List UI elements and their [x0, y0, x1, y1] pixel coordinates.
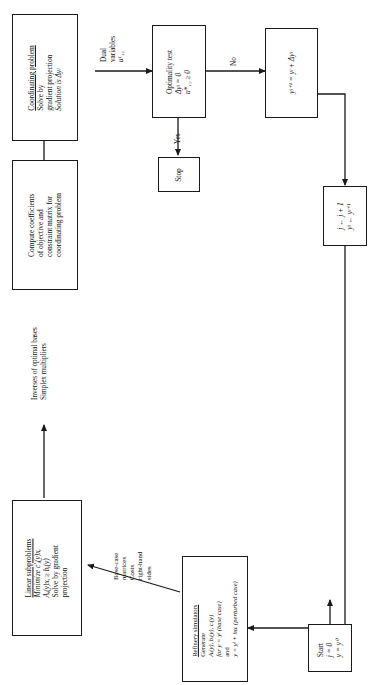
subproblems-line-5: projection: [61, 539, 70, 598]
yes-text: Yes: [174, 134, 183, 144]
subproblems-line-3: Aᵢ(y)xᵢ ≥ bᵢ(y): [42, 539, 51, 598]
optimality-test-text: Optimality test Δyʲ = 0 u*₁₂ ≥ 0: [165, 49, 192, 93]
subproblems-line-2: Minimize c′ᵢ(y)xᵢ: [33, 539, 42, 598]
no-label: No: [230, 57, 239, 66]
start-line-2: j = 0: [325, 639, 334, 657]
yes-label: Yes: [174, 134, 183, 144]
compute-line-3: constraint matrix for: [45, 193, 54, 257]
base-case-line-3: Costs: [128, 552, 136, 580]
counter-line-1: j ← j + 1: [336, 202, 345, 230]
dual-variables-line-3: u¹₁₂: [117, 36, 126, 62]
refinery-simulators-text: Refinery simulators Generate Aᵢ(y), bᵢ(y…: [191, 581, 239, 657]
coordinating-line-1: Coordinating problem: [27, 45, 36, 110]
no-text: No: [230, 57, 239, 66]
coordinating-line-2: Solve by: [36, 45, 45, 110]
compute-coefficients-box[interactable]: Compute coefficients of objective and co…: [12, 160, 78, 290]
base-case-line-1: Base-case: [112, 552, 120, 580]
optimality-line-1: Optimality test: [165, 49, 174, 93]
stop-text: Stop: [174, 168, 183, 182]
simulators-line-5: and: [223, 581, 231, 657]
coordinating-problem-text: Coordinating problem Solve by gradient p…: [27, 45, 63, 110]
base-case-line-5: sides: [145, 552, 153, 580]
stop-label: Stop: [174, 168, 183, 182]
subproblems-line-1: Linear subproblems: [24, 539, 33, 598]
linear-subproblems-text: Linear subproblems Minimize c′ᵢ(y)xᵢ Aᵢ(…: [24, 539, 69, 598]
coordinating-line-4: Solution is Δyʲ: [54, 45, 63, 110]
simulators-line-4: for y = yʲ (base case): [215, 581, 223, 657]
simulators-line-3: Aᵢ(y), bᵢ(y), cᵢ(y): [207, 581, 215, 657]
dual-variables-line-1: Dual: [100, 36, 109, 62]
inverses-line-1: Inverses of optimal bases: [31, 327, 40, 400]
coordinating-line-3: gradient projection: [45, 45, 54, 110]
base-case-line-4: right-hand: [136, 552, 144, 580]
simulators-line-6: y = yʲ + hαᵢ (perturbed case): [231, 581, 239, 657]
stop-box[interactable]: Stop: [158, 157, 200, 192]
compute-line-1: Compute coefficients: [27, 193, 36, 257]
counter-line-2: yʲ ← yʲ⁺¹: [345, 202, 354, 230]
coordinating-problem-box[interactable]: Coordinating problem Solve by gradient p…: [12, 14, 78, 141]
optimality-test-box[interactable]: Optimality test Δyʲ = 0 u*₁₂ ≥ 0: [152, 25, 206, 118]
start-text: Start j = 0 y = y⁰: [316, 639, 343, 657]
base-case-label: Base-case matrices Costs right-hand side…: [112, 552, 153, 580]
iteration-counter-text: j ← j + 1 yʲ ← yʲ⁺¹: [336, 202, 354, 230]
linear-subproblems-box[interactable]: Linear subproblems Minimize c′ᵢ(y)xᵢ Aᵢ(…: [12, 500, 82, 636]
simulators-line-2: Generate: [199, 581, 207, 657]
update-y-text: yʲ⁺¹ = yʲ + Δyʲ: [287, 52, 296, 93]
base-case-line-2: matrices: [120, 552, 128, 580]
start-box[interactable]: Start j = 0 y = y⁰: [308, 624, 352, 672]
dual-variables-line-2: variables: [109, 36, 118, 62]
dual-variables-label: Dual variables u¹₁₂: [100, 36, 126, 62]
compute-coefficients-text: Compute coefficients of objective and co…: [27, 193, 63, 257]
inverses-line-2: Simplex multipliers: [40, 327, 49, 400]
optimality-line-3: u*₁₂ ≥ 0: [184, 49, 193, 93]
inverses-label: Inverses of optimal bases Simplex multip…: [31, 327, 48, 400]
simulators-line-1: Refinery simulators: [191, 581, 199, 657]
start-line-3: y = y⁰: [335, 639, 344, 657]
optimality-line-2: Δyʲ = 0: [174, 49, 183, 93]
compute-line-2: of objective and: [36, 193, 45, 257]
update-y-label: yʲ⁺¹ = yʲ + Δyʲ: [287, 52, 296, 93]
update-y-box[interactable]: yʲ⁺¹ = yʲ + Δyʲ: [265, 28, 318, 118]
flowchart-canvas: Coordinating problem Solve by gradient p…: [0, 0, 381, 685]
refinery-simulators-box[interactable]: Refinery simulators Generate Aᵢ(y), bᵢ(y…: [182, 556, 248, 682]
compute-line-4: coordinating problem: [54, 193, 63, 257]
start-line-1: Start: [316, 639, 325, 657]
subproblems-line-4: Solve by gradient: [52, 539, 61, 598]
iteration-counter-box[interactable]: j ← j + 1 yʲ ← yʲ⁺¹: [323, 186, 367, 246]
